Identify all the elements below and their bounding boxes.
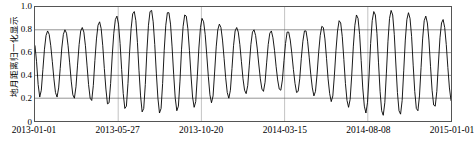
x-axis-tick-label: 2013-01-01 (12, 125, 56, 136)
y-axis-tick-label: 0.8 (21, 25, 32, 34)
y-axis-tick-label: 0.2 (21, 94, 32, 103)
x-axis-tick-label: 2014-03-15 (263, 125, 307, 136)
x-axis-tick-label: 2013-05-27 (95, 125, 139, 136)
x-axis-tick-labels: 2013-01-012013-05-272013-10-202014-03-15… (0, 125, 466, 141)
horizontal-gridlines (35, 30, 451, 98)
plot-svg (35, 7, 451, 121)
data-series-line (35, 10, 451, 115)
x-axis-tick-label: 2014-08-08 (346, 125, 390, 136)
x-axis-tick-label: 2013-10-20 (179, 125, 223, 136)
plot-area (34, 6, 452, 122)
y-axis-tick-label: 1.0 (21, 2, 32, 11)
y-axis-tick-label: 0.4 (21, 71, 32, 80)
y-axis-tick-label: 0.6 (21, 48, 32, 57)
x-axis-tick-label: 2015-01-01 (430, 125, 474, 136)
